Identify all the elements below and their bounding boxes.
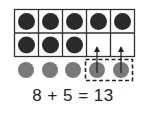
counter-dot: [66, 13, 83, 30]
counter-dot: [42, 13, 59, 30]
gray-counter: [65, 62, 81, 78]
counter-dot: [42, 37, 59, 54]
equation: 8 + 5 = 13: [0, 86, 146, 106]
added-counters: [18, 62, 129, 78]
gray-counter: [42, 62, 58, 78]
counter-dot: [18, 13, 35, 30]
gray-counter: [18, 62, 34, 78]
counter-dot: [90, 13, 107, 30]
counter-dot: [66, 37, 83, 54]
counter-dot: [114, 13, 131, 30]
counter-dot: [18, 37, 35, 54]
